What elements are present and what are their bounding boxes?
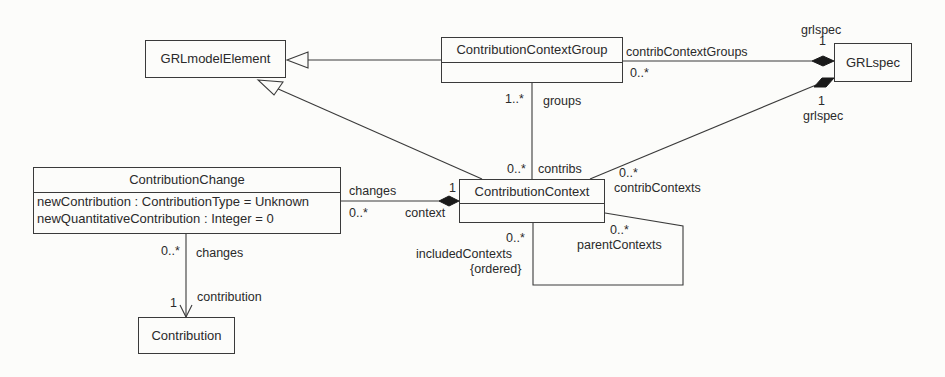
composition-diamond-icon [439, 196, 459, 206]
role-label: contribs [538, 162, 582, 176]
multiplicity-label: 1 [170, 296, 177, 310]
composition-diamond-icon [812, 56, 834, 66]
multiplicity-label: 0..* [349, 206, 368, 220]
compartment-divider [460, 203, 604, 204]
class-name: GRLmodelElement [146, 41, 285, 77]
class-name: ContributionContextGroup [442, 38, 622, 62]
class-name: ContributionChange [34, 168, 340, 192]
class-name: Contribution [139, 318, 234, 353]
attribute: newContribution : ContributionType = Unk… [34, 193, 340, 210]
role-label: changes [349, 184, 396, 198]
role-label: parentContexts [577, 238, 662, 252]
class-contribution-change[interactable]: ContributionChange newContribution : Con… [33, 167, 341, 234]
class-grl-spec[interactable]: GRLspec [834, 43, 912, 82]
generalization-arrow-icon [287, 52, 308, 68]
role-label: groups [543, 94, 581, 108]
role-label: contribution [197, 290, 262, 304]
class-name: GRLspec [835, 44, 911, 81]
role-label: includedContexts [416, 247, 512, 261]
multiplicity-label: 0..* [630, 66, 649, 80]
role-label: changes [196, 246, 243, 260]
class-grl-model-element[interactable]: GRLmodelElement [145, 40, 286, 78]
attribute: newQuantitativeContribution : Integer = … [34, 210, 340, 227]
role-label: contribContexts [614, 181, 701, 195]
generalization-arrow-icon [258, 80, 283, 95]
multiplicity-label: 0..* [161, 244, 180, 258]
multiplicity-label: 0..* [506, 231, 525, 245]
composition-diamond-icon [814, 78, 834, 87]
multiplicity-label: 0..* [619, 166, 638, 180]
compartment-divider [442, 62, 622, 63]
role-label: context [405, 206, 445, 220]
class-contribution[interactable]: Contribution [138, 317, 235, 354]
multiplicity-label: 1 [819, 34, 826, 48]
multiplicity-label: 1 [818, 94, 825, 108]
multiplicity-label: 1..* [505, 92, 524, 106]
role-label: contribContextGroups [626, 45, 748, 59]
class-name: ContributionContext [460, 180, 604, 203]
class-contribution-context[interactable]: ContributionContext [459, 179, 605, 223]
class-contribution-context-group[interactable]: ContributionContextGroup [441, 37, 623, 83]
role-label: grlspec [803, 109, 843, 123]
constraint-label: {ordered} [470, 262, 521, 276]
multiplicity-label: 0..* [610, 223, 629, 237]
multiplicity-label: 1 [449, 181, 456, 195]
multiplicity-label: 0..* [507, 162, 526, 176]
